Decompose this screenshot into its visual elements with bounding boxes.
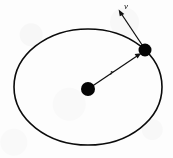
velocity-vector-line [121,13,145,49]
radius-vector-group: r [88,53,141,89]
velocity-vector-group: v [119,1,145,48]
central-body-dot [81,82,95,96]
orbiting-body-dot [139,44,152,57]
diagram-canvas: r v [0,0,173,158]
radius-label: r [110,67,114,77]
velocity-label: v [124,1,128,11]
orbital-motion-figure: r v [0,0,173,158]
